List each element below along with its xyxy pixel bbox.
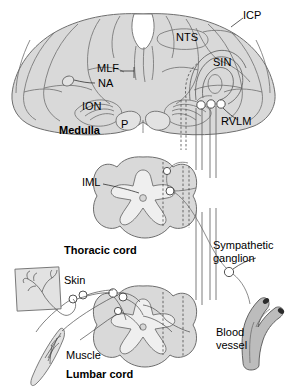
blood-vessel: [242, 297, 285, 370]
label-medulla: Medulla: [59, 125, 100, 137]
postganglionic-fiber: [233, 274, 250, 304]
sympathetic-ganglion-cell: [224, 267, 233, 276]
label-na: NA: [98, 78, 113, 90]
lumbar-central-canal: [140, 324, 146, 330]
label-rvlm: RVLM: [221, 116, 251, 128]
autonomic-pathway-diagram: .tis{fill:#d9d9d9;stroke:#6e6e6e;stroke-…: [0, 0, 291, 392]
label-icp: ICP: [243, 10, 261, 22]
label-mlf: MLF: [97, 63, 119, 75]
label-p: P: [121, 119, 128, 131]
label-thoracic-cord: Thoracic cord: [64, 245, 137, 257]
label-lumbar-cord: Lumbar cord: [66, 369, 133, 381]
thoracic-central-canal: [140, 195, 147, 202]
label-muscle: Muscle: [66, 350, 101, 362]
label-iml: IML: [82, 177, 100, 189]
label-nts: NTS: [176, 32, 198, 44]
label-sympathetic-ganglion-line2: ganglion: [213, 253, 255, 265]
blood-vessel-shape: [242, 298, 283, 370]
label-blood-vessel-line1: Blood: [216, 327, 244, 339]
label-sympathetic-ganglion-line1: Sympathetic: [213, 240, 274, 252]
label-skin: Skin: [64, 275, 85, 287]
medulla-section: [12, 14, 275, 150]
label-blood-vessel-line2: vessel: [216, 340, 247, 352]
sympathetic-ganglion-group: [224, 258, 256, 304]
icp-leader: [231, 18, 243, 27]
label-ion: ION: [82, 101, 102, 113]
label-sin: SIN: [213, 57, 231, 69]
descending-tracts: [196, 106, 216, 305]
